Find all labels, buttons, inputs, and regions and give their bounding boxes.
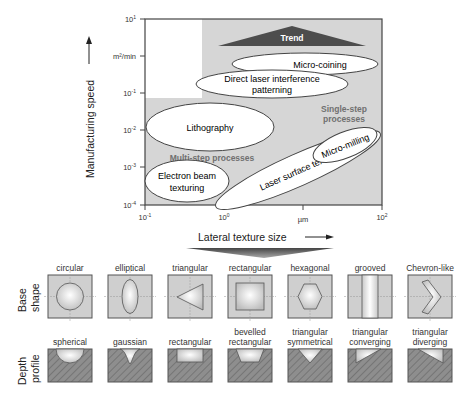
svg-text:Depth: Depth bbox=[16, 357, 28, 385]
svg-text:10-1: 10-1 bbox=[139, 212, 152, 222]
depth-profile-triangular-symmetrical bbox=[288, 349, 332, 382]
svg-text:Direct laser interference: Direct laser interference bbox=[224, 74, 320, 84]
svg-text:converging: converging bbox=[349, 337, 391, 347]
svg-text:shape: shape bbox=[29, 283, 41, 312]
down-arrow-icon bbox=[186, 248, 334, 258]
y-axis-label: Manufacturing speed bbox=[84, 80, 96, 178]
svg-text:10-2: 10-2 bbox=[123, 125, 136, 135]
svg-text:triangular: triangular bbox=[352, 327, 388, 337]
svg-text:profile: profile bbox=[29, 354, 41, 383]
base-shape-chevron-like bbox=[404, 271, 456, 322]
base-shape-elliptical bbox=[104, 271, 156, 322]
arrow-right-icon bbox=[305, 235, 334, 240]
base-shape-hexagonal bbox=[284, 271, 336, 322]
svg-text:texturing: texturing bbox=[170, 183, 205, 193]
trend-label: Trend bbox=[280, 33, 303, 43]
svg-text:rectangular: rectangular bbox=[169, 337, 212, 347]
base-shape-labels: circular elliptical triangular rectangul… bbox=[56, 263, 454, 273]
svg-text:grooved: grooved bbox=[355, 263, 386, 273]
svg-text:101: 101 bbox=[125, 14, 136, 24]
svg-text:m²/min: m²/min bbox=[113, 52, 136, 61]
base-shape-grooved bbox=[344, 275, 396, 318]
x-axis-label: Lateral texture size bbox=[198, 231, 287, 243]
svg-text:symmetrical: symmetrical bbox=[287, 337, 332, 347]
svg-text:10-3: 10-3 bbox=[123, 162, 136, 172]
arrow-up-icon bbox=[86, 36, 92, 64]
svg-text:triangular: triangular bbox=[292, 327, 328, 337]
base-shape-circular bbox=[44, 271, 96, 322]
plot-area: Trend Micro-coining Direct laser interfe… bbox=[140, 19, 387, 221]
depth-profile-row-label: Depth profile bbox=[16, 354, 41, 385]
svg-text:diverging: diverging bbox=[413, 337, 448, 347]
svg-text:Lithography: Lithography bbox=[186, 123, 234, 133]
svg-text:gaussian: gaussian bbox=[113, 337, 147, 347]
svg-text:patterning: patterning bbox=[252, 85, 292, 95]
svg-text:10-1: 10-1 bbox=[123, 88, 136, 98]
svg-text:spherical: spherical bbox=[53, 337, 87, 347]
svg-text:bevelled: bevelled bbox=[234, 327, 266, 337]
svg-text:µm: µm bbox=[298, 215, 309, 224]
texturing-diagram: Trend Micro-coining Direct laser interfe… bbox=[0, 0, 469, 397]
base-shape-triangular bbox=[164, 271, 216, 322]
depth-profile-triangular-converging bbox=[348, 349, 392, 382]
depth-profile-labels: spherical gaussian rectangular bevelled … bbox=[53, 327, 448, 347]
base-shape-rectangular bbox=[224, 271, 276, 322]
x-axis-tick-labels: 10-1 100 µm 102 bbox=[139, 212, 388, 224]
process-direct-laser-interference-patterning: Direct laser interference patterning bbox=[196, 70, 348, 98]
svg-text:Electron beam: Electron beam bbox=[158, 171, 216, 181]
svg-text:10-4: 10-4 bbox=[123, 200, 136, 210]
single-step-label: Single-step bbox=[321, 104, 367, 114]
base-shape-row-label: Base shape bbox=[16, 283, 41, 312]
depth-profile-spherical bbox=[48, 349, 92, 382]
process-electron-beam-texturing: Electron beam texturing bbox=[145, 160, 229, 202]
svg-text:100: 100 bbox=[218, 212, 229, 222]
svg-text:102: 102 bbox=[376, 212, 387, 222]
svg-text:Base: Base bbox=[16, 288, 28, 312]
depth-profile-rectangular bbox=[168, 349, 212, 382]
depth-profile-gaussian bbox=[108, 349, 152, 382]
x-axis-ticks bbox=[145, 205, 382, 210]
single-step-label-2: processes bbox=[323, 114, 365, 124]
depth-profile-triangular-diverging bbox=[408, 349, 452, 382]
svg-text:rectangular: rectangular bbox=[229, 337, 272, 347]
svg-text:Micro-coining: Micro-coining bbox=[293, 60, 347, 70]
y-axis-tick-labels: 101 m²/min 10-1 10-2 10-3 10-4 bbox=[113, 14, 136, 210]
y-axis-ticks bbox=[140, 19, 145, 205]
depth-profile-bevelled-rectangular bbox=[228, 349, 272, 382]
svg-text:triangular: triangular bbox=[412, 327, 448, 337]
process-lithography: Lithography bbox=[146, 103, 274, 151]
